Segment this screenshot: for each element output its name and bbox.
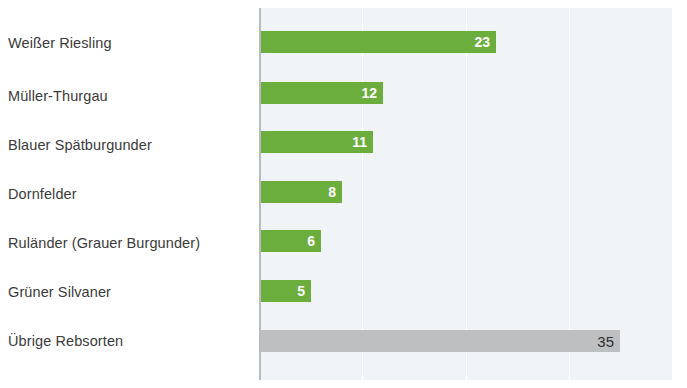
bar-value-label: 23 xyxy=(474,35,496,49)
bar-value-label: 12 xyxy=(361,86,383,100)
bar-value-label: 6 xyxy=(307,234,321,248)
bar-dornfelder[interactable]: 8 xyxy=(259,181,342,203)
category-label: Müller-Thurgau xyxy=(8,89,251,104)
bar-rulaender[interactable]: 6 xyxy=(259,230,321,252)
value-axis-line xyxy=(259,8,261,380)
bar-value-label: 11 xyxy=(352,135,373,149)
category-label: Grüner Silvaner xyxy=(8,285,251,300)
category-label: Weißer Riesling xyxy=(8,36,251,51)
bar-chart-figure: Weißer Riesling Müller-Thurgau Blauer Sp… xyxy=(0,0,687,388)
bar-mueller-thurgau[interactable]: 12 xyxy=(259,82,383,104)
bar-gruener-silvaner[interactable]: 5 xyxy=(259,280,311,302)
category-label: Blauer Spätburgunder xyxy=(8,138,251,153)
category-label: Dornfelder xyxy=(8,187,251,202)
bar-weisser-riesling[interactable]: 23 xyxy=(259,31,496,53)
bar-value-label: 5 xyxy=(297,284,311,298)
category-axis: Weißer Riesling Müller-Thurgau Blauer Sp… xyxy=(0,0,259,388)
category-label: Ruländer (Grauer Burgunder) xyxy=(8,236,251,251)
bar-blauer-spaetburgunder[interactable]: 11 xyxy=(259,131,373,153)
bars-layer: 23 12 11 8 6 5 35 xyxy=(259,0,687,388)
bar-uebrige-rebsorten[interactable]: 35 xyxy=(259,330,620,352)
bar-value-label: 35 xyxy=(597,334,620,349)
bar-value-label: 8 xyxy=(328,185,342,199)
category-label: Übrige Rebsorten xyxy=(8,334,251,349)
